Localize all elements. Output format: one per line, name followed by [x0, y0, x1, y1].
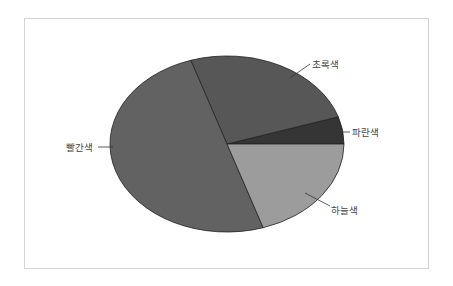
label-blue: 파란색: [352, 127, 379, 138]
label-sky: 하늘색: [331, 205, 358, 216]
label-red: 빨간색: [66, 142, 93, 153]
pie-chart: 초록색 파란색 빨간색 하늘색: [0, 0, 453, 286]
label-green: 초록색: [312, 59, 339, 70]
